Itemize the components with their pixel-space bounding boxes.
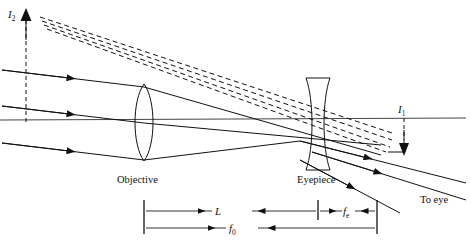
dimension-lines: L fe f0 (144, 200, 377, 237)
image-I2-label: I2 (7, 8, 16, 23)
virtual-ray-extensions (40, 17, 392, 152)
objective-label: Objective (117, 174, 158, 185)
optical-axis (0, 118, 466, 120)
to-eye-label: To eye (420, 194, 448, 205)
refracted-rays-objective (144, 87, 381, 160)
image-I1-marker (388, 118, 409, 156)
image-I1-label: I1 (397, 103, 406, 118)
eyepiece-label: Eyepiece (297, 174, 336, 185)
figure-svg: I2 I1 Objective Eyepiece To eye (0, 0, 471, 250)
dimension-f0-label: f0 (229, 222, 236, 237)
optical-ray-diagram: I2 I1 Objective Eyepiece To eye (0, 0, 471, 250)
dimension-L-label: L (214, 205, 221, 217)
image-I2-marker (21, 8, 32, 122)
dimension-fe-label: fe (343, 205, 350, 220)
incoming-parallel-rays (2, 70, 144, 160)
